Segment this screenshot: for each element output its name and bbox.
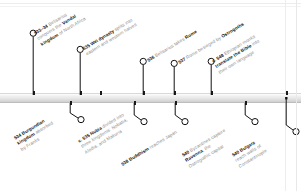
axis-tick bbox=[143, 91, 145, 95]
event-connector bbox=[128, 103, 152, 129]
label-line: 535 Wei dynasty splits into bbox=[82, 17, 135, 53]
axis-tick bbox=[211, 91, 213, 95]
event-label-535-wei: 535 Wei dynasty splits intoeastern and w… bbox=[82, 17, 139, 58]
event-label-534: 534 Burgundiankingdom absorbedby Franks bbox=[13, 115, 58, 152]
axis-tick bbox=[174, 91, 176, 95]
event-connector bbox=[168, 58, 188, 96]
label-line: 538 Buddhism reaches Japan bbox=[120, 129, 178, 167]
event-label-533: 533–34 Belisariusconquers the Vandalking… bbox=[33, 5, 87, 48]
axis-tick bbox=[80, 91, 82, 95]
event-connector bbox=[280, 97, 301, 141]
axis-tick bbox=[134, 101, 136, 105]
axis-tick bbox=[175, 101, 177, 105]
event-connector bbox=[137, 56, 157, 96]
timeline-axis-bar bbox=[0, 93, 301, 103]
axis-tick bbox=[245, 101, 247, 105]
event-label-540-bulgars: 540 Bulgarsreach walls ofConstantinople bbox=[231, 137, 268, 170]
axis-tick bbox=[100, 91, 102, 95]
axis-tick bbox=[33, 91, 35, 95]
page-hairline-top bbox=[0, 3, 301, 4]
axis-tick bbox=[286, 91, 288, 95]
event-label-540-ravenna: 540 Byzantines captureRavenna, theOstrog… bbox=[181, 128, 233, 170]
axis-tick bbox=[70, 101, 72, 105]
event-connector bbox=[239, 103, 263, 129]
event-connector bbox=[64, 103, 88, 127]
event-connector bbox=[169, 103, 193, 129]
timeline-graphic: 533–34 Belisariusconquers the Vandalking… bbox=[0, 0, 301, 191]
page-hairline-top-secondary bbox=[0, 6, 301, 7]
event-label-538: 538 Buddhism reaches Japan bbox=[120, 129, 178, 167]
right-edge-rule bbox=[296, 0, 297, 191]
event-label-535-nubia: c. 535 Nubia divided intothree kingdoms:… bbox=[77, 112, 132, 156]
